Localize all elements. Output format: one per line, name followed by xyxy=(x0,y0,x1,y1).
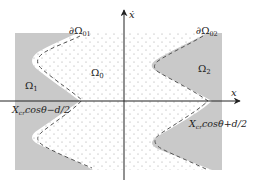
phase-plane-diagram: x ẋ Ω0 Ω1 Ω2 ∂Ω01 ∂Ω02 Xcrcosθ−d/2 Xcrco… xyxy=(0,0,254,188)
xdot-axis-label: ẋ xyxy=(129,9,135,20)
x-axis-label: x xyxy=(231,87,237,98)
